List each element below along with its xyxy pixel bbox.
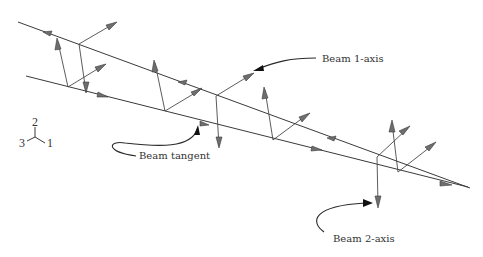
arrowhead-icon bbox=[399, 126, 410, 135]
beam-orientation-diagram: Beam 1-axis Beam tangent Beam 2-axis 2 1… bbox=[0, 0, 483, 257]
section-2 bbox=[152, 60, 202, 111]
section-4 bbox=[262, 87, 336, 151]
arrowhead-icon bbox=[194, 125, 200, 135]
section-3 bbox=[200, 73, 254, 148]
section-1 bbox=[43, 22, 117, 97]
arrowhead-icon bbox=[253, 65, 264, 71]
callout-beam-1-axis: Beam 1-axis bbox=[253, 53, 384, 71]
arrowhead-icon bbox=[262, 87, 268, 99]
arrowhead-icon bbox=[97, 92, 108, 97]
triad-axis-2: 2 bbox=[32, 115, 38, 129]
arrowhead-icon bbox=[389, 120, 395, 132]
arrowhead-icon bbox=[106, 22, 117, 30]
section-5 bbox=[375, 120, 452, 208]
arrowhead-icon bbox=[243, 73, 254, 81]
coordinate-triad-icon: 2 1 3 bbox=[19, 115, 53, 150]
arrowhead-icon bbox=[95, 64, 106, 72]
arrowhead-icon bbox=[43, 31, 52, 36]
arrowhead-icon bbox=[327, 136, 336, 141]
label-beam-tangent: Beam tangent bbox=[139, 150, 210, 161]
arrowhead-icon bbox=[216, 137, 222, 148]
label-beam-1-axis: Beam 1-axis bbox=[322, 53, 384, 64]
callout-beam-2-axis: Beam 2-axis bbox=[317, 199, 395, 244]
arrowhead-icon bbox=[375, 196, 381, 208]
arrowhead-icon bbox=[299, 113, 310, 122]
arrowhead-icon bbox=[311, 146, 322, 151]
triad-axis-3: 3 bbox=[19, 136, 25, 150]
arrowhead-icon bbox=[363, 199, 373, 207]
triad-axis-1: 1 bbox=[47, 136, 53, 150]
arrowhead-icon bbox=[152, 60, 158, 72]
arrowhead-icon bbox=[55, 38, 61, 50]
beam-lines bbox=[18, 22, 470, 188]
label-beam-2-axis: Beam 2-axis bbox=[333, 233, 395, 244]
upper-beam-line bbox=[18, 22, 470, 188]
callout-beam-tangent: Beam tangent bbox=[112, 125, 210, 161]
